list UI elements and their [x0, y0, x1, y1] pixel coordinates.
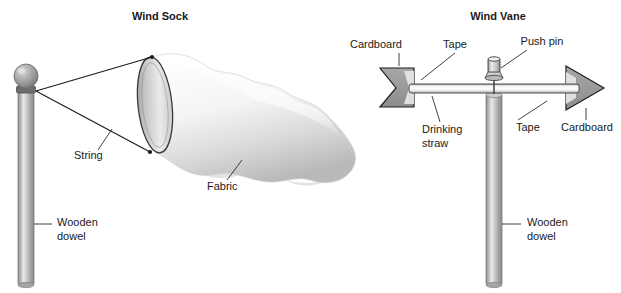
- push-pin-leader: [501, 50, 527, 68]
- windsock-ball-finial: [14, 64, 38, 88]
- science-diagram-figure: Wind Sock Wind Vane: [0, 0, 621, 293]
- label-fabric: Fabric: [207, 180, 238, 192]
- tape-right-leader: [518, 101, 547, 120]
- label-cardboard-right: Cardboard: [561, 121, 613, 133]
- drinking-straw-leader: [432, 96, 440, 122]
- wind-vane-title: Wind Vane: [470, 10, 526, 22]
- string-lower: [36, 91, 150, 152]
- tape-left-leader: [421, 53, 455, 80]
- string-upper: [36, 57, 152, 91]
- label-push-pin: Push pin: [521, 35, 564, 47]
- label-cardboard-left: Cardboard: [350, 38, 402, 50]
- windsock-wooden-dowel: [18, 92, 34, 285]
- label-drinking-straw-line1: Drinking: [422, 123, 462, 135]
- label-windsock-wooden-dowel-line2: dowel: [57, 230, 86, 242]
- label-tape-left: Tape: [443, 38, 467, 50]
- label-windvane-wooden-dowel-line2: dowel: [527, 230, 556, 242]
- windsock-ball-highlight: [18, 68, 26, 74]
- windsock-fabric: [152, 54, 355, 186]
- label-tape-right: Tape: [516, 121, 540, 133]
- string-leader: [98, 129, 112, 150]
- windvane-wooden-dowel: [486, 94, 502, 285]
- label-string: String: [74, 149, 103, 161]
- wind-sock-illustration: String Fabric Wooden dowel: [14, 54, 355, 288]
- wind-sock-title: Wind Sock: [132, 10, 189, 22]
- string-anchor-top: [150, 55, 154, 59]
- push-pin-skirt-rim: [485, 75, 503, 80]
- windvane-dowel-base: [486, 282, 502, 287]
- string-anchor-bottom: [148, 150, 152, 154]
- push-pin-head-top: [488, 57, 500, 61]
- wind-vane-illustration: Cardboard Tape Push pin Drinking straw T…: [350, 35, 613, 288]
- label-windvane-wooden-dowel-line1: Wooden: [527, 216, 568, 228]
- label-drinking-straw-line2: straw: [422, 137, 448, 149]
- windsock-dowel-base: [18, 282, 34, 287]
- label-windsock-wooden-dowel-line1: Wooden: [57, 216, 98, 228]
- diagram-canvas: Wind Sock Wind Vane: [0, 0, 621, 293]
